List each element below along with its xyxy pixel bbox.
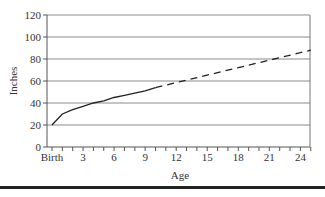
y-axis-title: Inches (7, 67, 19, 96)
x-tick-label: 21 (264, 151, 275, 163)
x-axis-title: Age (171, 169, 189, 181)
x-axis-ticks: Birth3691215182124 (41, 147, 311, 163)
measured-height-line (52, 88, 156, 125)
y-tick-label: 40 (30, 97, 42, 109)
y-axis-ticks: 020406080100120 (25, 9, 48, 153)
x-tick-label: 3 (80, 151, 86, 163)
y-tick-label: 80 (30, 53, 42, 65)
x-tick-label: Birth (41, 151, 64, 163)
y-tick-label: 60 (30, 75, 42, 87)
bottom-rule (0, 186, 325, 189)
gridlines (47, 15, 310, 125)
x-tick-label: 12 (171, 151, 182, 163)
data-series (52, 50, 311, 125)
y-tick-label: 20 (30, 119, 42, 131)
x-tick-label: 18 (233, 151, 245, 163)
x-tick-label: 15 (202, 151, 214, 163)
y-tick-label: 120 (25, 9, 42, 21)
x-tick-label: 9 (142, 151, 148, 163)
projected-height-line (156, 50, 311, 87)
height-by-age-chart: 020406080100120 Birth3691215182124 Inche… (0, 0, 325, 197)
x-tick-label: 24 (295, 151, 307, 163)
x-tick-label: 6 (111, 151, 117, 163)
y-tick-label: 100 (25, 31, 42, 43)
